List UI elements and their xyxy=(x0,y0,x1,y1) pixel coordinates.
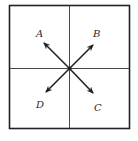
arrow-a xyxy=(44,43,70,69)
quadrant-arrow-diagram: A B C D xyxy=(0,0,138,141)
label-a: A xyxy=(35,28,43,39)
label-c: C xyxy=(94,102,102,113)
arrow-c xyxy=(70,69,94,94)
label-d: D xyxy=(35,99,44,110)
label-b: B xyxy=(92,28,100,39)
arrow-b xyxy=(70,45,94,69)
arrow-d xyxy=(46,69,70,93)
